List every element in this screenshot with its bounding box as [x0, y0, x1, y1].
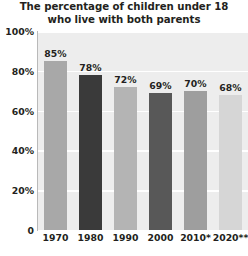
bar-group: 78% — [79, 31, 103, 230]
bar-1980 — [79, 75, 103, 230]
bar-group: 85% — [44, 31, 68, 230]
y-tick-label: 60% — [0, 105, 34, 116]
y-tick-label: 40% — [0, 145, 34, 156]
bar-group: 72% — [114, 31, 138, 230]
bar-group: 68% — [219, 31, 243, 230]
bar-value-label: 85% — [44, 48, 66, 59]
chart-title: The percentage of children under 18 who … — [0, 1, 248, 26]
y-tick-label: 80% — [0, 65, 34, 76]
x-tick-label: 2020** — [210, 232, 248, 243]
bar-value-label: 68% — [219, 82, 241, 93]
chart-title-line-2: who live with both parents — [0, 14, 248, 27]
bar-value-label: 78% — [79, 62, 101, 73]
bar-chart: The percentage of children under 18 who … — [0, 0, 248, 256]
y-tick-label: 0 — [0, 225, 34, 236]
bar-1970 — [44, 61, 68, 230]
bar-1990 — [114, 87, 138, 230]
y-tick-label: 20% — [0, 185, 34, 196]
bar-2000 — [149, 93, 173, 230]
y-axis-labels: 100%80%60%40%20%0 — [0, 31, 34, 230]
x-axis-labels: 19701980199020002010*2020** — [38, 232, 248, 254]
chart-title-line-1: The percentage of children under 18 — [20, 1, 229, 12]
y-tick-label: 100% — [0, 26, 34, 37]
bar-2010 — [184, 91, 208, 230]
bar-group: 70% — [184, 31, 208, 230]
bars-layer: 85%78%72%69%70%68% — [38, 31, 248, 230]
bar-value-label: 69% — [149, 80, 171, 91]
bar-value-label: 72% — [114, 74, 136, 85]
bar-value-label: 70% — [184, 78, 206, 89]
bar-group: 69% — [149, 31, 173, 230]
bar-2020 — [219, 95, 243, 230]
